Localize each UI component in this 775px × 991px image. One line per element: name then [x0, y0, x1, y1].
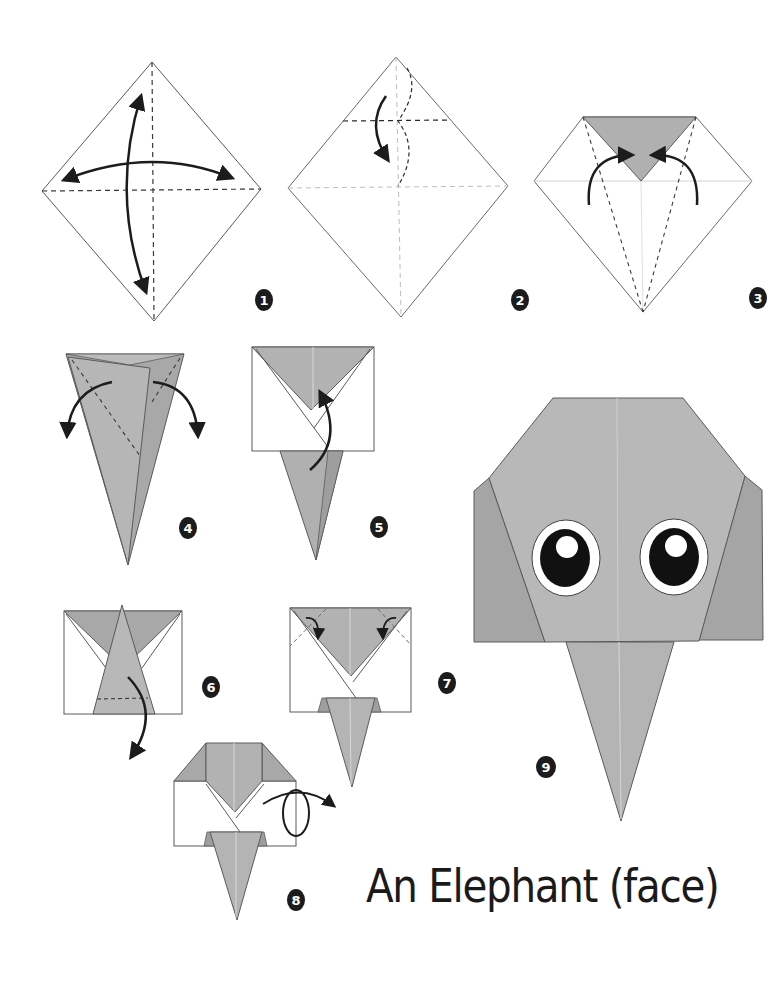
step-3-diagram — [534, 117, 752, 312]
svg-text:7: 7 — [442, 676, 451, 691]
svg-text:6: 6 — [206, 680, 215, 695]
step-badge-6: 6 — [202, 676, 220, 698]
left-eye — [532, 520, 600, 596]
right-eye — [640, 519, 708, 595]
step-6-diagram — [64, 605, 182, 757]
step-2-diagram — [288, 57, 508, 317]
step-badge-5: 5 — [370, 516, 388, 538]
svg-text:4: 4 — [183, 521, 192, 536]
svg-text:8: 8 — [291, 893, 300, 908]
step-9-elephant-face — [474, 398, 763, 821]
step-badge-8: 8 — [287, 889, 305, 911]
svg-text:2: 2 — [515, 293, 524, 308]
step-4-diagram — [66, 354, 198, 565]
svg-text:9: 9 — [541, 760, 550, 775]
svg-text:1: 1 — [259, 293, 268, 308]
svg-text:3: 3 — [753, 291, 762, 306]
page-title: An Elephant (face) — [366, 858, 719, 913]
step-1-diagram — [42, 62, 261, 321]
step-badge-7: 7 — [438, 672, 456, 694]
step-7-diagram — [290, 608, 411, 787]
step-badge-2: 2 — [511, 289, 529, 311]
step-badge-1: 1 — [255, 289, 273, 311]
origami-diagram: 1 2 3 4 — [0, 0, 775, 991]
step-badge-9: 9 — [536, 756, 556, 778]
svg-text:5: 5 — [374, 520, 383, 535]
step-badge-3: 3 — [749, 287, 767, 309]
step-5-diagram — [252, 347, 374, 560]
step-badge-4: 4 — [179, 517, 197, 539]
step-8-diagram — [174, 743, 334, 920]
